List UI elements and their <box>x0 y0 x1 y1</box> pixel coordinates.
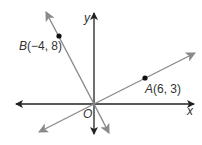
point-a-coords: (6, 3) <box>153 82 181 96</box>
point-a-label: A(6, 3) <box>144 82 181 96</box>
origin-label: O <box>83 107 92 121</box>
line-through-b <box>46 12 109 133</box>
point-a <box>142 75 147 80</box>
point-b-coords: (−4, 8) <box>27 39 62 53</box>
point-b-letter: B <box>19 39 27 53</box>
y-axis-label: y <box>83 11 91 25</box>
x-axis-label: x <box>186 104 194 118</box>
point-b-label: B(−4, 8) <box>19 39 62 53</box>
point-b <box>56 33 61 38</box>
point-a-letter: A <box>144 82 153 96</box>
coordinate-diagram: y x O B(−4, 8) A(6, 3) <box>0 0 202 145</box>
